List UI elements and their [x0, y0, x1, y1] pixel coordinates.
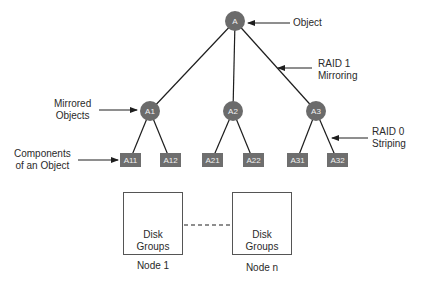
raid1-annotation: RAID 1 Mirroring [318, 58, 357, 81]
components-line2: of an Object [14, 160, 71, 172]
component-a21[interactable]: A21 [202, 153, 223, 167]
disk-groups-label: Disk Groups [124, 229, 182, 252]
mirror-node-a2[interactable]: A2 [223, 101, 243, 121]
raid1-line2: Mirroring [318, 70, 357, 82]
components-line1: Components [14, 148, 71, 160]
disk-groups-label: Disk Groups [233, 229, 291, 252]
annotation-arrows [78, 23, 368, 160]
tree-edges [130, 21, 337, 160]
components-annotation: Components of an Object [14, 148, 71, 171]
component-a11[interactable]: A11 [120, 153, 141, 167]
connector-lines [0, 0, 421, 283]
raid0-annotation: RAID 0 Striping [372, 126, 406, 149]
raid0-line2: Striping [372, 138, 406, 150]
host-node-n[interactable]: Disk Groups [232, 192, 292, 255]
component-a12[interactable]: A12 [160, 153, 181, 167]
host-node-n-label: Node n [232, 262, 292, 273]
raid1-line1: RAID 1 [318, 58, 357, 70]
component-a22[interactable]: A22 [243, 153, 264, 167]
mirror-node-a3[interactable]: A3 [306, 101, 326, 121]
mirror-node-a1[interactable]: A1 [140, 101, 160, 121]
raid0-line1: RAID 0 [372, 126, 406, 138]
host-node-1-label: Node 1 [123, 260, 183, 271]
component-a32[interactable]: A32 [327, 153, 348, 167]
disk-groups-line2: Groups [233, 241, 291, 253]
host-node-1[interactable]: Disk Groups [123, 192, 183, 255]
mirrored-line1: Mirrored [54, 98, 91, 110]
component-a31[interactable]: A31 [287, 153, 308, 167]
object-annotation: Object [293, 17, 322, 29]
disk-groups-line2: Groups [124, 241, 182, 253]
disk-groups-line1: Disk [233, 229, 291, 241]
mirrored-objects-annotation: Mirrored Objects [54, 98, 91, 121]
object-node-a[interactable]: A [225, 11, 245, 31]
disk-groups-line1: Disk [124, 229, 182, 241]
mirrored-line2: Objects [54, 110, 91, 122]
